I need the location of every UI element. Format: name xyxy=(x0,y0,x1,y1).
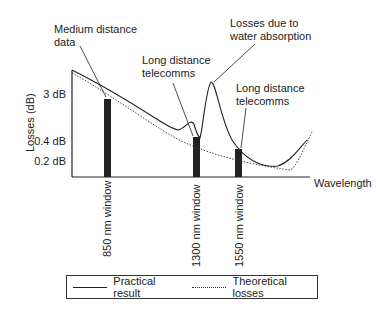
window-1550-label: 1550 nm window xyxy=(233,184,245,267)
annotation-long-distance-1: Long distancetelecomms xyxy=(142,54,211,80)
window-850-label: 850 nm window xyxy=(101,181,113,257)
window-1550-bar xyxy=(235,149,242,177)
x-axis-label: Wavelength xyxy=(314,177,372,190)
annotation-medium-distance: Medium distancedata xyxy=(54,23,137,49)
legend-practical: Practical result xyxy=(113,275,182,299)
annotation-water-absorption: Losses due towater absorption xyxy=(230,17,311,43)
legend: Practical result Theoretical losses xyxy=(66,275,318,299)
y-tick-3db: 3 dB xyxy=(26,88,66,100)
window-1300-label: 1300 nm window xyxy=(190,184,202,267)
window-850-bar xyxy=(104,99,111,177)
legend-dotted-swatch xyxy=(192,287,226,288)
annotation-long-distance-2: Long distancetelecomms xyxy=(236,82,305,108)
window-1300-bar xyxy=(193,137,200,177)
y-tick-0-2db: 0.2 dB xyxy=(26,155,66,167)
y-tick-0-4db: 0.4 dB xyxy=(26,135,66,147)
legend-solid-swatch xyxy=(73,287,107,288)
legend-theoretical: Theoretical losses xyxy=(232,275,317,299)
